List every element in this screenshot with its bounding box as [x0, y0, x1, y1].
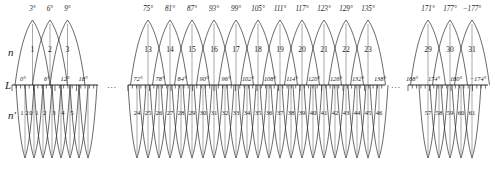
row-label-n: n	[8, 46, 14, 58]
axis-degree-label: 84°	[178, 75, 187, 82]
np-index-label: 39	[299, 109, 306, 116]
upper-angle-label: −177°	[463, 5, 482, 13]
np-index-label: 4	[61, 109, 65, 116]
n-index-label: 20	[298, 45, 306, 54]
np-index-label: 58	[436, 109, 443, 116]
n-index-label: 30	[446, 45, 454, 54]
np-index-label: 24	[134, 109, 141, 116]
np-index-label: 36	[266, 109, 273, 116]
upper-angle-label: 111°	[274, 5, 287, 13]
n-index-label: 14	[166, 45, 174, 54]
n-index-label: 18	[254, 45, 262, 54]
np-index-label: 26	[156, 109, 163, 116]
n-index-label: 29	[424, 45, 432, 54]
upper-angle-label: 3°	[28, 5, 36, 13]
angular-lobe-diagram: 3°16°29°3120123450°6°12°18°75°1381°1487°…	[0, 0, 495, 171]
axis-degree-label: 138°	[374, 75, 387, 82]
axis-degree-label: 0°	[20, 75, 26, 82]
np-index-label: 0	[29, 109, 33, 116]
np-index-label: 28	[178, 109, 185, 116]
np-index-label: 2	[43, 109, 46, 116]
axis-degree-label: 102°	[242, 75, 255, 82]
n-index-label: 2	[48, 45, 52, 54]
axis-degree-label: 120°	[308, 75, 321, 82]
n-index-label: 13	[144, 45, 152, 54]
np-index-label: 61	[469, 109, 476, 116]
upper-angle-label: 129°	[339, 5, 353, 13]
np-index-label: 1	[35, 109, 38, 116]
np-index-label: 44	[354, 109, 361, 116]
upper-angle-label: 6°	[47, 5, 54, 13]
axis-degree-label: 78°	[156, 75, 165, 82]
np-index-label: 40	[310, 109, 317, 116]
np-index-label: 30	[200, 109, 207, 116]
n-index-label: 22	[342, 45, 350, 54]
axis-layer	[12, 85, 488, 91]
axis-degree-label: 90°	[200, 75, 209, 82]
np-index-label: 1	[20, 109, 23, 116]
n-index-label: 21	[320, 45, 328, 54]
axis-degree-label: 6°	[44, 75, 50, 82]
n-index-label: 17	[232, 45, 240, 54]
n-index-label: 1	[31, 45, 35, 54]
upper-angle-label: 123°	[317, 5, 331, 13]
upper-angle-label: 117°	[295, 5, 308, 13]
np-index-label: 43	[343, 109, 350, 116]
n-index-label: 31	[468, 45, 476, 54]
np-index-label: 37	[277, 109, 284, 116]
np-index-label: 60	[458, 109, 465, 116]
axis-degree-label: 180°	[450, 75, 463, 82]
upper-angle-label: 81°	[165, 5, 175, 13]
np-index-label: 35	[255, 109, 262, 116]
axis-degree-label: 18°	[79, 75, 88, 82]
np-index-label: 29	[189, 109, 196, 116]
n-index-label: 19	[276, 45, 284, 54]
np-index-label: 34	[244, 109, 251, 116]
lobe-layer	[15, 20, 490, 158]
np-index-label: 59	[447, 109, 454, 116]
np-index-label: 41	[321, 109, 328, 116]
upper-angle-label: 9°	[64, 5, 71, 13]
ellipsis-mark: ...	[107, 80, 117, 90]
np-index-label: 57	[425, 109, 432, 116]
np-index-label: 45	[365, 109, 372, 116]
np-index-label: 33	[233, 109, 240, 116]
np-index-label: 25	[145, 109, 152, 116]
axis-degree-label: 126°	[330, 75, 343, 82]
diagram-canvas: 3°16°29°3120123450°6°12°18°75°1381°1487°…	[0, 0, 495, 171]
upper-angle-label: 105°	[251, 5, 265, 13]
np-index-label: 38	[288, 109, 295, 116]
n-index-label: 3	[66, 45, 70, 54]
axis-degree-label: 168°	[406, 75, 419, 82]
axis-degree-label: 132°	[352, 75, 365, 82]
row-label-n-prime: n′	[8, 109, 17, 121]
np-index-label: 31	[211, 109, 218, 116]
n-index-label: 16	[210, 45, 218, 54]
axis-degree-label: 114°	[286, 75, 298, 82]
row-label-L: L	[4, 79, 11, 91]
ellipsis-mark: ...	[391, 80, 401, 90]
np-index-label: 5	[70, 109, 74, 116]
upper-angle-label: 135°	[361, 5, 375, 13]
np-index-label: 27	[167, 109, 174, 116]
upper-angle-label: 171°	[421, 5, 435, 13]
np-index-label: 42	[332, 109, 339, 116]
axis-degree-label: 12°	[61, 75, 70, 82]
n-index-label: 15	[188, 45, 196, 54]
n-index-label: 23	[364, 45, 372, 54]
axis-degree-label: 72°	[134, 75, 143, 82]
axis-degree-label: 108°	[264, 75, 277, 82]
upper-angle-label: 93°	[209, 5, 219, 13]
upper-angle-label: 99°	[231, 5, 241, 13]
np-index-label: 3	[52, 109, 56, 116]
upper-angle-label: 177°	[443, 5, 457, 13]
axis-degree-label: −174°	[470, 75, 487, 82]
axis-degree-label: 174°	[428, 75, 441, 82]
np-index-label: 32	[222, 109, 229, 116]
np-index-label: 2	[25, 109, 28, 116]
text-layer: 3°16°29°3120123450°6°12°18°75°1381°1487°…	[4, 5, 487, 121]
np-index-label: 46	[376, 109, 383, 116]
upper-angle-label: 87°	[187, 5, 197, 13]
axis-degree-label: 96°	[222, 75, 231, 82]
upper-angle-label: 75°	[143, 5, 153, 13]
